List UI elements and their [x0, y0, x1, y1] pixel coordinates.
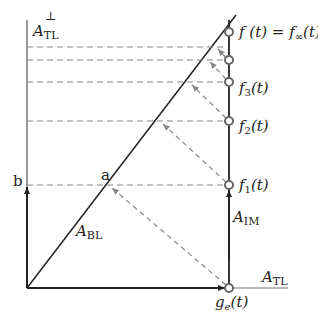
finf-label: f (t) = f∞(t): [238, 23, 318, 42]
f3-point: [225, 78, 233, 86]
horizontal-axis-label: ATL: [260, 268, 288, 288]
bl-line: [27, 15, 236, 288]
vertical-axis-label: ATL: [31, 22, 59, 42]
f2-label: f2(t): [238, 117, 269, 136]
perp-symbol: ⊥: [45, 9, 56, 23]
b-label: b: [13, 172, 23, 190]
bl-label: ABL: [74, 222, 103, 242]
finf-point: [225, 28, 233, 36]
a-label: a: [101, 166, 110, 184]
ge-label: ge(t): [215, 293, 248, 312]
f3-label: f3(t): [238, 79, 269, 98]
im-label: AIM: [231, 208, 259, 228]
f2-point: [225, 117, 233, 125]
dashed-iterations: [112, 49, 226, 285]
f4-point: [225, 56, 233, 64]
iteration-diagram: ATL ⊥ ATL ABL AIM a b ge(t) f1(t) f2(t) …: [0, 0, 318, 320]
f1-label: f1(t): [238, 176, 269, 195]
ge-point: [225, 284, 233, 292]
f1-point: [225, 181, 233, 189]
